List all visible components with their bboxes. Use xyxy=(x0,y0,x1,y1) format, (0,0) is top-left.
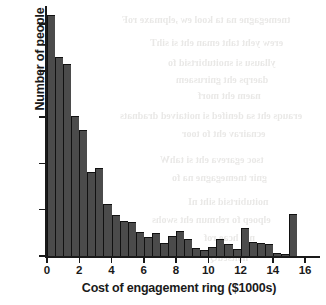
histogram-bar xyxy=(192,248,200,256)
x-axis-tick xyxy=(208,257,210,263)
histogram-bar xyxy=(120,221,128,256)
x-axis-tick xyxy=(272,257,274,263)
histogram-bar xyxy=(265,244,273,256)
histogram-bar xyxy=(184,239,192,256)
histogram-bar xyxy=(200,250,208,256)
histogram-figure: Number of people Cost of engagement ring… xyxy=(0,0,326,305)
x-axis-tick xyxy=(79,257,81,263)
histogram-bar xyxy=(160,243,168,256)
histogram-bar xyxy=(289,214,297,256)
x-axis-tick-label: 6 xyxy=(132,264,156,276)
histogram-bar xyxy=(55,57,63,256)
histogram-bar xyxy=(241,228,249,256)
histogram-bar xyxy=(233,249,241,256)
histogram-bar xyxy=(257,243,265,256)
x-axis-title: Cost of engagement ring ($1000s) xyxy=(38,281,320,295)
histogram-bar xyxy=(144,237,152,256)
y-axis-tick xyxy=(39,255,45,257)
histogram-bar xyxy=(63,64,71,256)
histogram-bar xyxy=(168,236,176,256)
x-axis-tick-label: 0 xyxy=(35,264,59,276)
histogram-bar xyxy=(79,130,87,256)
histogram-bar xyxy=(216,239,224,256)
histogram-bar xyxy=(281,254,289,256)
x-axis-tick-label: 2 xyxy=(67,264,91,276)
x-axis-tick-label: 8 xyxy=(164,264,188,276)
histogram-bar xyxy=(224,244,232,256)
x-axis-tick-label: 12 xyxy=(229,264,253,276)
histogram-bar xyxy=(273,253,281,256)
x-axis-tick xyxy=(304,257,306,263)
histogram-bar xyxy=(176,231,184,256)
histogram-bar xyxy=(71,116,79,256)
x-axis-tick xyxy=(240,257,242,263)
x-axis-tick-label: 10 xyxy=(196,264,220,276)
x-axis-tick xyxy=(111,257,113,263)
y-axis-tick xyxy=(39,116,45,118)
histogram-bar xyxy=(152,233,160,256)
histogram-bar xyxy=(103,204,111,256)
histogram-bar xyxy=(95,168,103,256)
x-axis-tick-label: 14 xyxy=(261,264,285,276)
y-axis-tick xyxy=(39,70,45,72)
y-axis-tick xyxy=(39,24,45,26)
y-axis-tick xyxy=(39,163,45,165)
x-axis-line xyxy=(45,256,320,258)
histogram-bar xyxy=(47,15,55,256)
x-axis-tick-label: 16 xyxy=(293,264,317,276)
x-axis-tick xyxy=(143,257,145,263)
histogram-bar xyxy=(87,172,95,256)
x-axis-tick xyxy=(46,257,48,263)
x-axis-tick xyxy=(175,257,177,263)
histogram-bar xyxy=(128,222,136,256)
histogram-bar xyxy=(249,242,257,256)
plot-area xyxy=(47,8,318,256)
histogram-bar xyxy=(136,232,144,256)
y-axis-tick xyxy=(39,209,45,211)
histogram-bar xyxy=(112,215,120,256)
x-axis-tick-label: 4 xyxy=(100,264,124,276)
histogram-bar xyxy=(208,247,216,256)
